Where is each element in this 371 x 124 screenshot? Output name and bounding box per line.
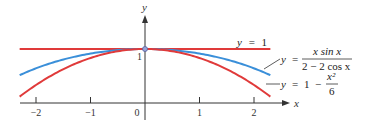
- x-axis-label: x: [293, 97, 299, 109]
- label-red-term1: 1: [304, 78, 310, 90]
- label-red-denominator: 6: [329, 85, 335, 97]
- label-y-equals-1: y = 1: [236, 36, 267, 48]
- label-y1-eq: =: [249, 36, 255, 48]
- y-axis-label: y: [141, 1, 147, 13]
- x-tick-label: −2: [31, 107, 42, 118]
- label-blue-lhs: y: [280, 53, 286, 65]
- y-tick-label: 1: [137, 51, 142, 62]
- ticks: −2−10121: [31, 51, 257, 118]
- x-tick-label: −1: [85, 107, 96, 118]
- chart: x y −2−10121 y = 1 y = x sin x 2 − 2 cos…: [0, 0, 371, 124]
- x-axis-arrow-icon: [282, 100, 290, 106]
- x-tick-label: 0: [135, 107, 140, 118]
- point-0-1: [143, 47, 148, 52]
- label-y1-rhs: 1: [262, 36, 268, 48]
- y-axis-arrow-icon: [142, 15, 148, 23]
- point-group: [143, 47, 148, 52]
- label-red-minus: −: [315, 78, 321, 90]
- chart-svg: x y −2−10121 y = 1 y = x sin x 2 − 2 cos…: [0, 0, 371, 124]
- label-red-numerator: x²: [326, 70, 336, 82]
- label-blue-eq: =: [292, 53, 298, 65]
- label-y1-lhs: y: [236, 36, 242, 48]
- label-blue-leader: [264, 59, 280, 69]
- x-tick-label: 2: [252, 107, 257, 118]
- label-red-eq: =: [292, 78, 298, 90]
- x-tick-label: 1: [197, 107, 202, 118]
- label-red-lhs: y: [280, 78, 286, 90]
- label-blue-numerator: x sin x: [312, 45, 341, 57]
